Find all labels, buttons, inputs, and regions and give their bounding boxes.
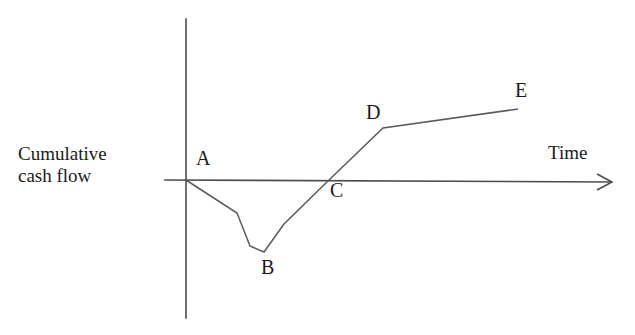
y-axis-label-line1: Cumulative [18,143,107,164]
point-label-d: D [366,101,380,125]
point-label-e: E [515,79,527,103]
point-label-c: C [330,179,343,203]
point-label-b: B [261,256,274,280]
point-label-a: A [196,147,210,171]
cash-flow-diagram: Cumulativecash flow Time A B C D E [0,0,635,335]
x-axis-line [165,180,610,182]
y-axis-label: Cumulativecash flow [18,143,107,188]
x-axis-label: Time [548,142,587,164]
y-axis-label-line2: cash flow [18,165,91,186]
